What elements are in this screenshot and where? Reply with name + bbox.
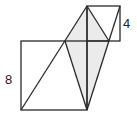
large-square-label: 8 (5, 72, 12, 87)
small-square-label: 4 (123, 16, 130, 31)
geometry-figure: 8 4 (0, 0, 137, 116)
